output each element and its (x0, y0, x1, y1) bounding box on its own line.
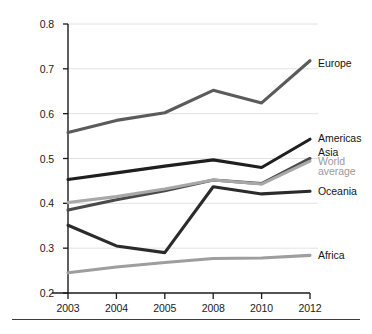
series-line-africa (68, 255, 310, 272)
series-lines (68, 61, 310, 273)
y-tick-label: 0.8 (24, 18, 54, 30)
y-tick-label: 0.7 (24, 63, 54, 75)
x-tick-label: 2012 (290, 302, 330, 314)
bottom-divider-rule (12, 319, 360, 320)
series-label-americas: Americas (318, 133, 361, 144)
series-label-oceania: Oceania (318, 186, 357, 197)
series-line-americas (68, 139, 310, 179)
chart-figure: 0.80.70.60.50.40.30.2 200320042005200820… (0, 0, 372, 334)
x-tick-label: 2005 (145, 302, 185, 314)
series-label-europe: Europe (318, 58, 352, 69)
x-tick-label: 2010 (242, 302, 282, 314)
y-tick-label: 0.3 (24, 242, 54, 254)
y-tick-label: 0.5 (24, 153, 54, 165)
series-line-europe (68, 61, 310, 133)
series-label-africa: Africa (318, 250, 345, 261)
series-label-line: average (318, 166, 356, 177)
y-tick-label: 0.4 (24, 197, 54, 209)
x-tick-label: 2004 (96, 302, 136, 314)
series-label-world-average: Worldaverage (318, 156, 356, 177)
y-tick-label: 0.2 (24, 287, 54, 299)
y-tick-label: 0.6 (24, 108, 54, 120)
x-tick-label: 2003 (48, 302, 88, 314)
chart-plot-area (0, 0, 372, 334)
series-line-world-average (68, 161, 310, 202)
x-tick-label: 2008 (193, 302, 233, 314)
